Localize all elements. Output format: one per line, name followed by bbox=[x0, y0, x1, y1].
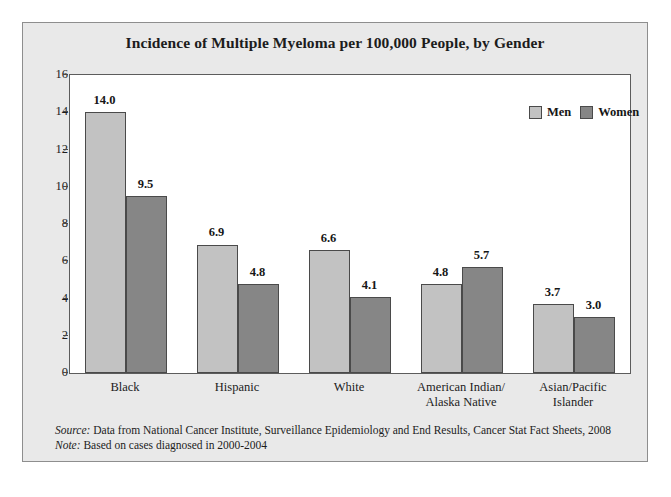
y-axis-tick-mark bbox=[63, 223, 68, 224]
bar-value-label: 4.8 bbox=[420, 265, 461, 280]
bar-value-label: 3.0 bbox=[573, 298, 614, 313]
legend-label-women: Women bbox=[598, 105, 639, 120]
x-axis-tick-label: Black bbox=[69, 380, 181, 395]
legend-item-women: Women bbox=[580, 105, 639, 120]
y-axis-tick-mark bbox=[63, 186, 68, 187]
bar-women-0 bbox=[126, 196, 167, 373]
chart-legend: Men Women bbox=[529, 105, 639, 120]
bar-value-label: 4.1 bbox=[349, 278, 390, 293]
legend-item-men: Men bbox=[529, 105, 571, 120]
bar-value-label: 3.7 bbox=[532, 285, 573, 300]
y-axis-tick-mark bbox=[63, 149, 68, 150]
bar-men-0 bbox=[85, 112, 126, 373]
legend-label-men: Men bbox=[547, 105, 571, 120]
footnote-note: Note: Based on cases diagnosed in 2000-2… bbox=[55, 438, 611, 453]
footnote-source: Source: Data from National Cancer Instit… bbox=[55, 423, 611, 438]
y-axis-tick-mark bbox=[63, 260, 68, 261]
bar-value-label: 9.5 bbox=[125, 177, 166, 192]
y-axis-tick-mark bbox=[63, 74, 68, 75]
x-axis-tick-label: American Indian/ Alaska Native bbox=[405, 380, 517, 410]
y-axis-tick-mark bbox=[63, 335, 68, 336]
y-axis-tick-mark bbox=[63, 298, 68, 299]
bar-value-label: 6.9 bbox=[196, 225, 237, 240]
bar-value-label: 4.8 bbox=[237, 265, 278, 280]
footnote-note-key: Note: bbox=[55, 439, 81, 451]
bar-men-2 bbox=[309, 250, 350, 373]
bar-men-1 bbox=[197, 245, 238, 374]
chart-title: Incidence of Multiple Myeloma per 100,00… bbox=[23, 34, 647, 52]
footnote-source-text: Data from National Cancer Institute, Sur… bbox=[90, 424, 611, 436]
y-axis-tick-mark bbox=[63, 372, 68, 373]
bar-value-label: 14.0 bbox=[84, 93, 125, 108]
chart-footnotes: Source: Data from National Cancer Instit… bbox=[55, 423, 611, 453]
y-axis: 0246810121416 bbox=[37, 74, 68, 374]
legend-swatch-women-icon bbox=[580, 106, 593, 119]
bar-women-2 bbox=[350, 297, 391, 373]
bar-value-label: 6.6 bbox=[308, 231, 349, 246]
legend-swatch-men-icon bbox=[529, 106, 542, 119]
chart-figure: Incidence of Multiple Myeloma per 100,00… bbox=[22, 22, 648, 462]
x-axis-tick-label: Asian/Pacific Islander bbox=[517, 380, 629, 410]
bar-women-4 bbox=[574, 317, 615, 373]
bar-value-label: 5.7 bbox=[461, 248, 502, 263]
x-axis-tick-label: Hispanic bbox=[181, 380, 293, 395]
x-axis-tick-label: White bbox=[293, 380, 405, 395]
bar-women-3 bbox=[462, 267, 503, 373]
bar-men-4 bbox=[533, 304, 574, 373]
footnote-source-key: Source: bbox=[55, 424, 90, 436]
footnote-note-text: Based on cases diagnosed in 2000-2004 bbox=[81, 439, 268, 451]
bar-men-3 bbox=[421, 284, 462, 373]
bar-women-1 bbox=[238, 284, 279, 373]
y-axis-tick-mark bbox=[63, 111, 68, 112]
